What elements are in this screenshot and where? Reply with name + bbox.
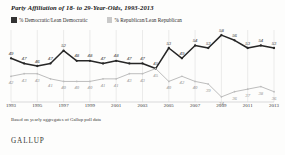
x-tick-label: 2011 [243, 103, 253, 108]
chart-legend: % Democratic/Lean Democratic % Republica… [11, 17, 182, 23]
data-point-democratic [62, 49, 64, 51]
data-point-democratic [49, 62, 51, 64]
data-point-republican [36, 73, 38, 75]
data-point-republican [50, 78, 52, 80]
data-point-democratic [194, 44, 196, 46]
data-point-republican [194, 81, 196, 83]
data-point-democratic [128, 62, 130, 64]
data-point-republican [89, 81, 91, 83]
data-point-republican [102, 78, 104, 80]
data-point-republican [273, 91, 275, 93]
data-point-democratic [220, 34, 222, 36]
data-point-democratic [181, 57, 183, 59]
data-point-democratic [36, 65, 38, 67]
data-point-republican [115, 78, 117, 80]
data-point-democratic [141, 62, 143, 64]
data-point-democratic [247, 47, 249, 49]
chart-title: Party Affiliation of 18- to 29-Year-Olds… [11, 4, 154, 11]
x-tick-label: 2001 [111, 103, 121, 108]
x-tick-label: 1995 [32, 103, 42, 108]
x-tick-label: 2013 [269, 103, 279, 108]
data-point-republican [10, 75, 12, 77]
data-point-republican [76, 81, 78, 83]
legend-label-democratic: % Democratic/Lean Democratic [19, 17, 88, 23]
legend-swatch-republican [107, 17, 113, 23]
plot-svg [11, 30, 274, 102]
x-tick-label: 2007 [190, 103, 200, 108]
data-point-republican [142, 73, 144, 75]
data-point-republican [23, 73, 25, 75]
x-axis-labels: 1993199519971999200120032005200720092011… [11, 103, 274, 114]
data-point-democratic [115, 60, 117, 62]
legend-entry-democratic: % Democratic/Lean Democratic [11, 17, 88, 23]
data-point-republican [247, 88, 249, 90]
data-point-democratic [260, 44, 262, 46]
data-point-democratic [76, 60, 78, 62]
chart-footnote: Based on yearly aggregates of Gallup pol… [11, 117, 101, 122]
legend-entry-republican: % Republican/Lean Republican [107, 17, 182, 23]
legend-swatch-democratic [11, 17, 17, 23]
data-point-democratic [168, 47, 170, 49]
x-tick-label: 1999 [85, 103, 95, 108]
chart-figure: Party Affiliation of 18- to 29-Year-Olds… [0, 0, 285, 155]
data-point-republican [168, 81, 170, 83]
data-point-republican [260, 86, 262, 88]
legend-label-republican: % Republican/Lean Republican [115, 17, 182, 23]
data-point-republican [207, 83, 209, 85]
x-tick-label: 1997 [59, 103, 69, 108]
x-tick-label: 2009 [216, 103, 226, 108]
data-point-democratic [207, 47, 209, 49]
x-tick-label: 2003 [137, 103, 147, 108]
data-point-republican [234, 91, 236, 93]
data-point-democratic [102, 62, 104, 64]
data-point-republican [63, 81, 65, 83]
x-tick-label: 1993 [6, 103, 16, 108]
data-point-republican [221, 96, 223, 98]
data-point-republican [181, 75, 183, 77]
x-tick-label: 2005 [164, 103, 174, 108]
plot-area: 4947464752484847484747455349545358565354… [11, 30, 274, 102]
data-point-republican [129, 73, 131, 75]
data-point-republican [155, 68, 157, 70]
gallup-logo: GALLUP [11, 137, 45, 145]
data-point-democratic [89, 60, 91, 62]
data-point-democratic [273, 47, 275, 49]
data-point-democratic [23, 62, 25, 64]
data-point-democratic [10, 57, 12, 59]
data-point-democratic [233, 39, 235, 41]
